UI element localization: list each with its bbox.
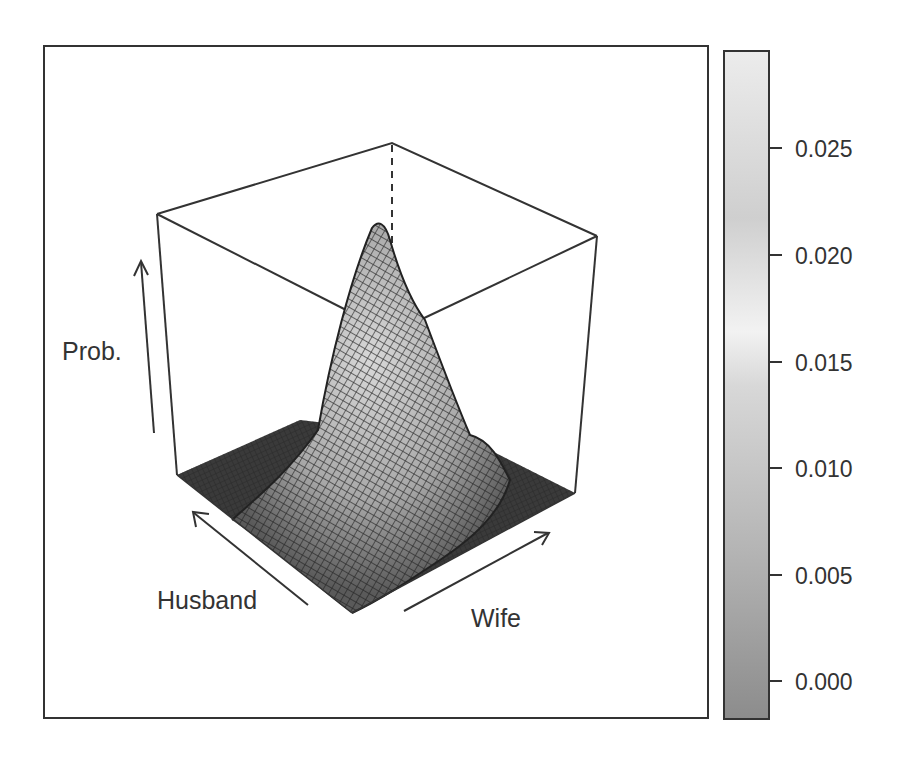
colorbar-tick-label: 0.010 (795, 456, 853, 482)
colorbar-labels: 0.025 0.020 0.015 0.010 0.005 0.000 (795, 136, 853, 695)
colorbar (724, 51, 769, 719)
colorbar-tick-label: 0.015 (795, 350, 853, 376)
colorbar-tick-label: 0.020 (795, 243, 853, 269)
colorbar-ticks (770, 148, 782, 681)
colorbar-tick-label: 0.005 (795, 563, 853, 589)
x-axis-label: Wife (471, 604, 521, 632)
colorbar-tick-label: 0.025 (795, 136, 853, 162)
y-axis-label: Husband (157, 586, 257, 614)
z-axis-label: Prob. (62, 337, 122, 365)
chart-canvas: Prob. Husband Wife 0.025 0.020 0.015 0.0… (0, 0, 914, 761)
colorbar-tick-label: 0.000 (795, 669, 853, 695)
